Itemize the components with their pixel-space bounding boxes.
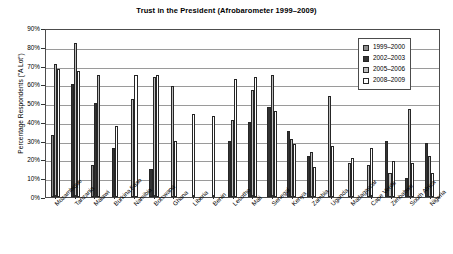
bar-group bbox=[223, 30, 243, 197]
legend-item: 2005–2006 bbox=[363, 64, 405, 75]
bar-group bbox=[302, 30, 322, 197]
chart-title: Trust in the President (Afrobarometer 19… bbox=[0, 6, 453, 15]
y-axis-tick-50%: 50% bbox=[0, 101, 40, 107]
y-axis-tick-30%: 30% bbox=[0, 139, 40, 145]
legend-item: 2008–2009 bbox=[363, 75, 405, 86]
y-axis-tick-70%: 70% bbox=[0, 64, 40, 70]
legend-item: 1999–2000 bbox=[363, 42, 405, 53]
bar bbox=[234, 79, 237, 197]
bar-group bbox=[164, 30, 184, 197]
bar bbox=[351, 158, 354, 197]
bar bbox=[192, 114, 195, 197]
bar-group bbox=[85, 30, 105, 197]
legend-swatch-icon bbox=[363, 78, 369, 84]
y-axis-tick-20%: 20% bbox=[0, 157, 40, 163]
bar bbox=[115, 126, 118, 197]
bar-group bbox=[282, 30, 302, 197]
bar-group bbox=[46, 30, 66, 197]
chart-container: Trust in the President (Afrobarometer 19… bbox=[0, 0, 453, 254]
legend-label: 2008–2009 bbox=[373, 77, 405, 83]
bar bbox=[156, 75, 159, 197]
bar bbox=[313, 167, 316, 197]
bar-group bbox=[203, 30, 223, 197]
bar bbox=[293, 144, 296, 197]
bar bbox=[212, 116, 215, 197]
legend-swatch-icon bbox=[363, 67, 369, 73]
bar bbox=[254, 77, 257, 197]
bar bbox=[331, 146, 334, 197]
x-axis-labels: MozambiqueTanzaniaMalawiBurkina FasoNami… bbox=[45, 199, 440, 254]
bar bbox=[57, 69, 60, 197]
bar-group bbox=[321, 30, 341, 197]
y-axis-tick-60%: 60% bbox=[0, 82, 40, 88]
bar-group bbox=[144, 30, 164, 197]
bar-group bbox=[125, 30, 145, 197]
bar-group bbox=[105, 30, 125, 197]
legend-item: 2002–2003 bbox=[363, 53, 405, 64]
bar-group bbox=[243, 30, 263, 197]
legend-label: 2005–2006 bbox=[373, 66, 405, 72]
bar bbox=[97, 75, 100, 197]
legend-swatch-icon bbox=[363, 56, 369, 62]
y-axis-tick-90%: 90% bbox=[0, 26, 40, 32]
y-axis-tick-80%: 80% bbox=[0, 45, 40, 51]
y-axis-tick-0%: 0% bbox=[0, 195, 40, 201]
legend: 1999–20002002–20032005–20062008–2009 bbox=[358, 38, 411, 90]
legend-label: 2002–2003 bbox=[373, 55, 405, 61]
bar-group bbox=[419, 30, 439, 197]
bar-group bbox=[66, 30, 86, 197]
y-axis-tick-40%: 40% bbox=[0, 120, 40, 126]
y-axis-tick-10%: 10% bbox=[0, 176, 40, 182]
legend-label: 1999–2000 bbox=[373, 44, 405, 50]
bar bbox=[411, 163, 414, 197]
legend-swatch-icon bbox=[363, 45, 369, 51]
bar-group bbox=[184, 30, 204, 197]
bar-group bbox=[262, 30, 282, 197]
bar bbox=[274, 111, 277, 197]
